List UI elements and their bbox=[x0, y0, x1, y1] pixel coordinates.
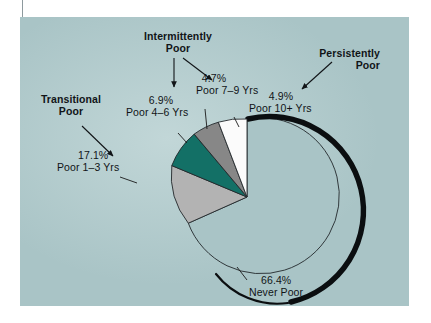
annotation-persistently-poor-line2: Poor bbox=[278, 60, 380, 72]
slice-percent-poor-7-9-yrs: 4.7% bbox=[196, 73, 232, 85]
annotation-intermittently-poor: Intermittently Poor bbox=[126, 31, 230, 55]
slice-percent-poor-4-6-yrs: 6.9% bbox=[143, 95, 179, 107]
slice-label-poor-10-plus-yrs: 4.9% Poor 10+ Yrs bbox=[249, 91, 345, 115]
slice-name-poor-10-plus-yrs: Poor 10+ Yrs bbox=[249, 103, 345, 115]
annotation-transitional-poor-line1: Transitional bbox=[22, 94, 120, 106]
annotation-transitional-poor-line2: Poor bbox=[22, 106, 120, 118]
annotation-persistently-poor-line1: Persistently bbox=[278, 48, 380, 60]
annotation-persistently-poor: Persistently Poor bbox=[278, 48, 380, 72]
slice-label-never-poor: 66.4% Never Poor bbox=[249, 275, 347, 299]
slice-percent-never-poor: 66.4% bbox=[261, 275, 347, 287]
pie-chart-figure: Intermittently Poor Persistently Poor Tr… bbox=[20, 17, 409, 306]
annotation-intermittently-poor-line1: Intermittently bbox=[126, 31, 230, 43]
slice-name-poor-1-3-yrs: Poor 1–3 Yrs bbox=[57, 162, 155, 174]
figure-page: Intermittently Poor Persistently Poor Tr… bbox=[0, 0, 431, 323]
slice-label-poor-1-3-yrs: 17.1% Poor 1–3 Yrs bbox=[57, 150, 155, 174]
slice-label-poor-4-6-yrs: 6.9% Poor 4–6 Yrs bbox=[126, 95, 220, 119]
annotation-intermittently-poor-line2: Poor bbox=[126, 43, 230, 55]
slice-name-poor-4-6-yrs: Poor 4–6 Yrs bbox=[126, 107, 220, 119]
slice-name-never-poor: Never Poor bbox=[249, 287, 347, 299]
annotation-transitional-poor: Transitional Poor bbox=[22, 94, 120, 118]
slice-percent-poor-10-plus-yrs: 4.9% bbox=[263, 91, 299, 103]
leader-line-poor-1-3-yrs bbox=[120, 177, 137, 183]
chart-plot-area: Intermittently Poor Persistently Poor Tr… bbox=[20, 17, 409, 306]
leader-line-poor-4-6-yrs bbox=[178, 133, 187, 143]
slice-percent-poor-1-3-yrs: 17.1% bbox=[78, 150, 155, 162]
